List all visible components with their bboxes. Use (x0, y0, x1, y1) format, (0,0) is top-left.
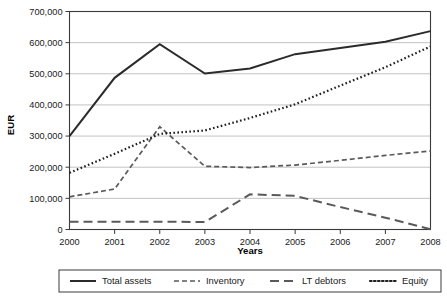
x-tick-label: 2008 (420, 237, 440, 247)
chart-canvas: 0100,000200,000300,000400,000500,000600,… (0, 0, 447, 296)
x-tick-label: 2007 (375, 237, 395, 247)
data-series (70, 31, 431, 229)
x-tick-label: 2002 (150, 237, 170, 247)
y-tick-label: 400,000 (29, 100, 62, 110)
x-tick-label: 2000 (59, 237, 79, 247)
series-line-equity (70, 46, 431, 172)
y-tick-label: 600,000 (29, 38, 62, 48)
y-tick-label: 200,000 (29, 163, 62, 173)
y-axis-tick-labels: 0100,000200,000300,000400,000500,000600,… (29, 7, 62, 235)
gridlines (70, 43, 431, 199)
series-line-lt-debtors (70, 194, 431, 229)
y-tick-label: 700,000 (29, 7, 62, 17)
x-tick-label: 2001 (104, 237, 124, 247)
legend-label-lt-debtors: LT debtors (302, 275, 346, 286)
x-axis-title: Years (237, 245, 263, 256)
legend-label-inventory: Inventory (206, 275, 245, 286)
y-tick-label: 100,000 (29, 194, 62, 204)
legend-label-equity: Equity (402, 275, 428, 286)
line-chart-figure: 0100,000200,000300,000400,000500,000600,… (0, 0, 447, 296)
x-tick-label: 2003 (195, 237, 215, 247)
legend-label-total-assets: Total assets (102, 275, 152, 286)
x-tick-label: 2006 (330, 237, 350, 247)
y-tick-label: 300,000 (29, 131, 62, 141)
y-tick-label: 0 (57, 225, 62, 235)
y-axis-tick-marks (66, 12, 70, 230)
chart-legend: Total assetsInventoryLT debtorsEquity (59, 270, 441, 292)
plot-area-border (70, 12, 431, 230)
x-tick-label: 2005 (285, 237, 305, 247)
y-tick-label: 500,000 (29, 69, 62, 79)
y-axis-title: EUR (5, 115, 16, 135)
series-line-total-assets (70, 31, 431, 136)
series-line-inventory (70, 127, 431, 197)
x-axis-tick-marks (115, 230, 386, 235)
